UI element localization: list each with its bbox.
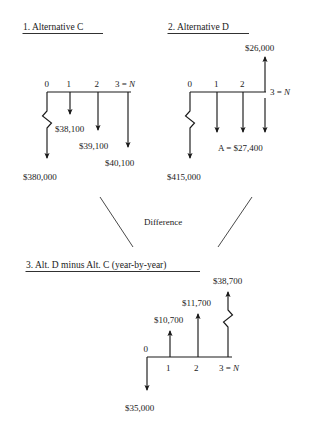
difference-connector-left (100, 197, 133, 247)
panel-1-tick-1: 1 (67, 79, 72, 89)
panel-3-flow-initial-label: $35,000 (125, 403, 155, 413)
panel-2-title: 2. Alternative D (168, 22, 229, 32)
difference-connectors: Difference (100, 197, 252, 247)
panel-3-title: 3. Alt. D minus Alt. C (year-by-year) (26, 260, 166, 271)
panel-3-tick-2: 2 (194, 363, 199, 373)
panel-2-tick-2: 2 (240, 79, 245, 89)
panel-2-flow-salvage-label: $26,000 (245, 43, 275, 53)
panel-1-tick-2: 2 (95, 79, 100, 89)
panel-1-flow-year2-label: $39,100 (79, 141, 109, 151)
panel-1-tick-3: 3 = N (115, 79, 136, 89)
panel-3-tick-0: 0 (144, 344, 149, 354)
difference-connector-right (218, 197, 252, 247)
difference-label: Difference (144, 217, 182, 227)
panel-3-tick-3: 3 = N (219, 363, 240, 373)
panel-2-flow-initial-label: $415,000 (167, 172, 201, 182)
panel-3-flow-year1-label: $10,700 (154, 315, 184, 325)
panel-2-flow-initial-arrow (186, 92, 195, 158)
panel-1-flow-initial-arrow (43, 92, 52, 158)
panel-3-tick-1: 1 (166, 363, 171, 373)
panel-1-flow-year1-label: $38,100 (55, 124, 85, 134)
panel-3-flow-year3-arrow (224, 292, 233, 357)
panel-1-title: 1. Alternative C (23, 22, 83, 32)
panel-2-tick-0: 0 (188, 79, 193, 89)
panel-alternative-d: 2. Alternative D 0 1 2 3 = N $26,000 $41… (167, 22, 291, 182)
panel-2-flow-annual-label: A = $27,400 (218, 143, 263, 153)
panel-difference: 3. Alt. D minus Alt. C (year-by-year) 0 … (26, 260, 243, 413)
cash-flow-diagram-figure: 1. Alternative C 0 1 2 3 = N $380,000 $3… (0, 0, 322, 426)
panel-2-tick-1: 1 (214, 79, 219, 89)
panel-1-flow-initial-label: $380,000 (23, 172, 57, 182)
panel-1-tick-0: 0 (45, 79, 50, 89)
panel-2-tick-3: 3 = N (270, 87, 291, 97)
panel-1-flow-year3-label: $40,100 (105, 158, 135, 168)
panel-alternative-c: 1. Alternative C 0 1 2 3 = N $380,000 $3… (23, 22, 137, 182)
figure-canvas: 1. Alternative C 0 1 2 3 = N $380,000 $3… (0, 0, 322, 426)
panel-3-flow-year3-label: $38,700 (213, 276, 243, 286)
panel-3-flow-year2-label: $11,700 (182, 298, 211, 308)
